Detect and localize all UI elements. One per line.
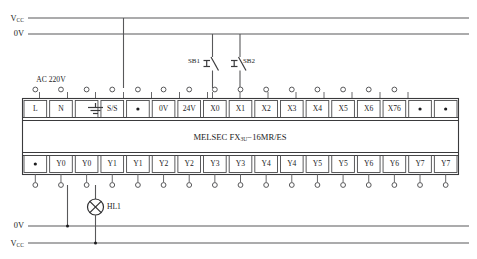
top-terminal-label: X1 <box>236 104 245 113</box>
top-terminal-cell[interactable] <box>75 101 98 118</box>
vcc-bottom-label-sub: CC <box>17 242 25 248</box>
bottom-terminal-label: Y0 <box>56 159 65 168</box>
top-terminal-stubs <box>40 92 409 98</box>
top-terminal-screw[interactable] <box>84 87 89 92</box>
top-terminal-label: X6 <box>364 104 373 113</box>
bottom-terminal-label: Y2 <box>185 159 194 168</box>
bottom-terminal-screw[interactable] <box>238 183 243 188</box>
bottom-terminal-screw[interactable] <box>366 183 371 188</box>
top-terminal-label: X5 <box>338 104 347 113</box>
top-terminal-label: X4 <box>313 104 322 113</box>
bottom-terminal-label: Y6 <box>390 159 399 168</box>
bottom-terminal-screw[interactable] <box>212 183 217 188</box>
top-stub-wires <box>40 92 409 98</box>
bottom-terminal-label: Y1 <box>133 159 142 168</box>
sb2-label: SB2 <box>243 57 256 65</box>
top-terminal-screw[interactable] <box>341 87 346 92</box>
bottom-terminal-screw[interactable] <box>443 183 448 188</box>
bottom-terminal-screw[interactable] <box>392 183 397 188</box>
top-terminal-screw[interactable] <box>392 87 397 92</box>
bottom-terminal-label: Y4 <box>262 159 271 168</box>
bottom-terminal-label: Y3 <box>210 159 219 168</box>
bottom-terminal-label: Y1 <box>108 159 117 168</box>
switch-sb1-group[interactable]: SB1 <box>188 34 219 88</box>
plc-model-sub: 3U <box>240 136 247 142</box>
dot-icon <box>444 107 447 110</box>
bottom-terminal-screw[interactable] <box>418 183 423 188</box>
top-terminal-screw[interactable] <box>315 87 320 92</box>
top-terminal-label: L <box>33 104 38 113</box>
top-terminal-label: X76 <box>388 104 401 113</box>
wiring-diagram-canvas: VCC 0V SB1 SB2 <box>0 0 477 259</box>
plc-model-label: MELSEC FX3U−16MR/ES <box>193 131 286 142</box>
bottom-terminal-label: Y7 <box>441 159 450 168</box>
bottom-terminal-label: Y5 <box>313 159 322 168</box>
bottom-terminal-label: Y3 <box>236 159 245 168</box>
bottom-terminal-cells: Y0Y0Y1Y1Y2Y2Y3Y3Y4Y4Y5Y5Y6Y6Y7Y7 <box>24 156 457 173</box>
bottom-terminal-screw[interactable] <box>315 183 320 188</box>
top-terminal-screw[interactable] <box>110 87 115 92</box>
top-terminal-screw[interactable] <box>289 87 294 92</box>
top-terminal-label: X3 <box>287 104 296 113</box>
top-terminal-screw[interactable] <box>264 87 269 92</box>
bottom-rail-group: 0V VCC <box>10 221 469 247</box>
vcc-top-label: VCC <box>10 13 24 22</box>
top-terminal-screw[interactable] <box>238 87 243 92</box>
zerov-top-label: 0V <box>14 29 24 38</box>
top-terminal-label: X2 <box>262 104 271 113</box>
bottom-terminal-screw[interactable] <box>59 183 64 188</box>
dot-icon <box>418 107 421 110</box>
plc-model-tail: −16MR/ES <box>247 131 286 141</box>
switch-sb2-group[interactable]: SB2 <box>231 34 256 88</box>
top-terminal-screw[interactable] <box>212 87 217 92</box>
top-terminal-label: 24V <box>183 104 197 113</box>
top-terminal-screw[interactable] <box>366 87 371 92</box>
junction-y0-0v <box>66 225 69 228</box>
dot-icon <box>34 162 37 165</box>
bottom-terminal-screw[interactable] <box>341 183 346 188</box>
top-terminal-label: X0 <box>210 104 219 113</box>
top-terminal-label: N <box>58 104 64 113</box>
vcc-bottom-label: VCC <box>10 238 24 247</box>
top-terminal-screw[interactable] <box>161 87 166 92</box>
bottom-terminal-screw[interactable] <box>84 183 89 188</box>
zerov-bottom-label: 0V <box>14 221 24 230</box>
lamp-hl1-group: HL1 <box>88 185 122 243</box>
bottom-terminal-screw[interactable] <box>33 183 38 188</box>
bottom-terminal-label: Y5 <box>338 159 347 168</box>
sb1-label: SB1 <box>188 57 201 65</box>
top-terminal-screw[interactable] <box>136 87 141 92</box>
top-terminal-cells: LNS/S0V24VX0X1X2X3X4X5X6X76 <box>24 101 457 118</box>
top-terminal-screw[interactable] <box>59 87 64 92</box>
plc-model-name: MELSEC FX <box>193 131 241 141</box>
bottom-terminal-label: Y0 <box>82 159 91 168</box>
top-terminal-screw[interactable] <box>187 87 192 92</box>
bottom-terminal-screw[interactable] <box>136 183 141 188</box>
ac-source-label: AC 220V <box>36 75 66 84</box>
top-terminal-label: 0V <box>159 104 169 113</box>
bottom-terminal-label: Y7 <box>415 159 424 168</box>
bottom-terminal-screw[interactable] <box>110 183 115 188</box>
top-terminal-label: S/S <box>107 104 118 113</box>
top-terminal-screw[interactable] <box>33 87 38 92</box>
dot-icon <box>136 107 139 110</box>
vcc-top-label-sub: CC <box>17 17 25 23</box>
bottom-terminal-screw[interactable] <box>264 183 269 188</box>
bottom-terminal-label: Y2 <box>159 159 168 168</box>
bottom-terminal-screw[interactable] <box>187 183 192 188</box>
bottom-terminal-screw[interactable] <box>289 183 294 188</box>
hl1-label: HL1 <box>107 202 121 211</box>
sb1-contact-blade <box>211 57 219 71</box>
bottom-terminal-label: Y6 <box>364 159 373 168</box>
bottom-terminal-label: Y4 <box>287 159 296 168</box>
bottom-terminal-screw[interactable] <box>161 183 166 188</box>
top-terminal-screws <box>33 87 397 92</box>
junction-hl1-vcc <box>94 242 97 245</box>
